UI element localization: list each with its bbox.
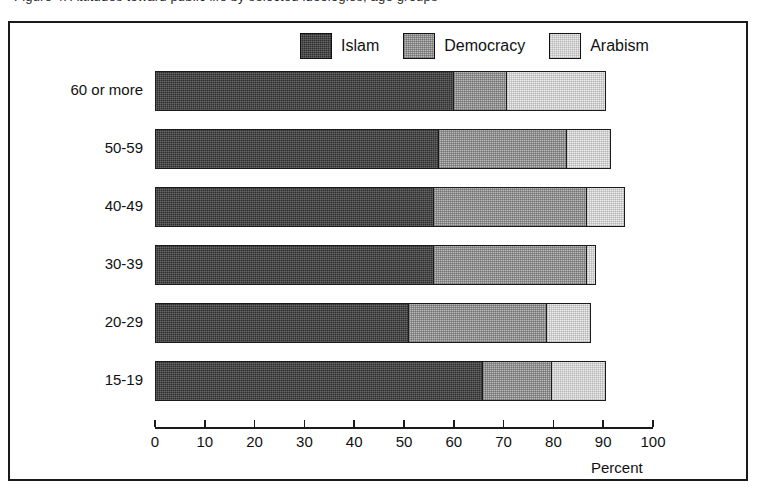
x-axis-tick-label: 70 <box>495 433 512 450</box>
x-axis-tick <box>553 420 555 427</box>
bar-segment-arabism <box>551 361 606 401</box>
x-axis-tick-label: 60 <box>445 433 462 450</box>
x-axis-tick <box>602 420 604 427</box>
x-axis-tick <box>652 420 654 427</box>
figure-caption-strip: Figure 4. Attitudes toward public life b… <box>0 0 766 12</box>
bar-row <box>155 303 591 343</box>
bar-segment-islam <box>155 245 434 285</box>
bar-segment-islam <box>155 71 454 111</box>
bar-segment-arabism <box>566 129 611 169</box>
bar-segment-democracy <box>433 187 587 227</box>
bar-row <box>155 71 606 111</box>
x-axis-tick <box>453 420 455 427</box>
x-axis-tick <box>204 420 206 427</box>
bar-segment-democracy <box>408 303 547 343</box>
x-axis-title: Percent <box>591 459 643 476</box>
x-axis-tick <box>403 420 405 427</box>
category-label: 15-19 <box>10 371 143 388</box>
bar-segment-democracy <box>482 361 552 401</box>
bar-row <box>155 187 625 227</box>
bar-row <box>155 129 611 169</box>
x-axis-line <box>155 427 653 429</box>
category-label: 30-39 <box>10 255 143 272</box>
bar-row <box>155 361 606 401</box>
x-axis-tick-label: 40 <box>346 433 363 450</box>
x-axis-tick <box>304 420 306 427</box>
x-axis-tick-label: 30 <box>296 433 313 450</box>
x-axis-tick <box>154 420 156 427</box>
category-label: 20-29 <box>10 313 143 330</box>
bar-segment-islam <box>155 129 439 169</box>
bar-segment-democracy <box>453 71 508 111</box>
x-axis-tick-label: 90 <box>595 433 612 450</box>
bar-segment-democracy <box>433 245 587 285</box>
figure-frame: Islam Democracy Arabism Percent 60 or mo… <box>8 21 748 481</box>
bar-segment-arabism <box>506 71 606 111</box>
category-label: 60 or more <box>10 81 143 98</box>
category-label: 40-49 <box>10 197 143 214</box>
bar-segment-islam <box>155 187 434 227</box>
bar-segment-arabism <box>546 303 591 343</box>
bar-segment-democracy <box>438 129 567 169</box>
x-axis-tick-label: 100 <box>640 433 665 450</box>
figure-caption-text: Figure 4. Attitudes toward public life b… <box>14 0 438 4</box>
x-axis-tick-label: 20 <box>246 433 263 450</box>
category-label: 50-59 <box>10 139 143 156</box>
plot-area: Percent 60 or more50-5940-4930-3920-2915… <box>10 23 746 479</box>
bar-segment-arabism <box>586 187 626 227</box>
x-axis-tick <box>353 420 355 427</box>
x-axis-tick-label: 80 <box>545 433 562 450</box>
x-axis-tick <box>503 420 505 427</box>
bar-segment-arabism <box>586 245 596 285</box>
x-axis-tick <box>254 420 256 427</box>
bar-row <box>155 245 596 285</box>
bar-segment-islam <box>155 361 484 401</box>
x-axis-tick-label: 10 <box>196 433 213 450</box>
x-axis-tick-label: 50 <box>396 433 413 450</box>
x-axis-tick-label: 0 <box>151 433 159 450</box>
bar-segment-islam <box>155 303 409 343</box>
